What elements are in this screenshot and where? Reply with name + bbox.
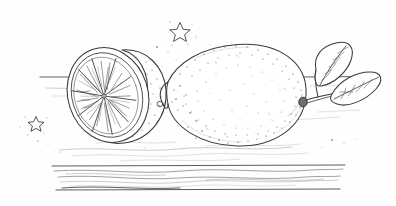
lemon-illustration-canvas: Lemon Still Life Line Drawing Halved lem…	[0, 0, 396, 206]
sparkle-star-top	[169, 21, 196, 45]
wooden-table-edge	[52, 165, 345, 190]
whole-lemon	[167, 44, 307, 146]
stem-nub	[299, 97, 307, 107]
lemon-branch	[299, 42, 381, 106]
sparkle-star-left	[20, 117, 48, 142]
lemon-drawing-svg	[0, 0, 396, 206]
ground-shadow-lines	[60, 142, 308, 161]
halved-lemon-cross-section	[55, 37, 166, 153]
